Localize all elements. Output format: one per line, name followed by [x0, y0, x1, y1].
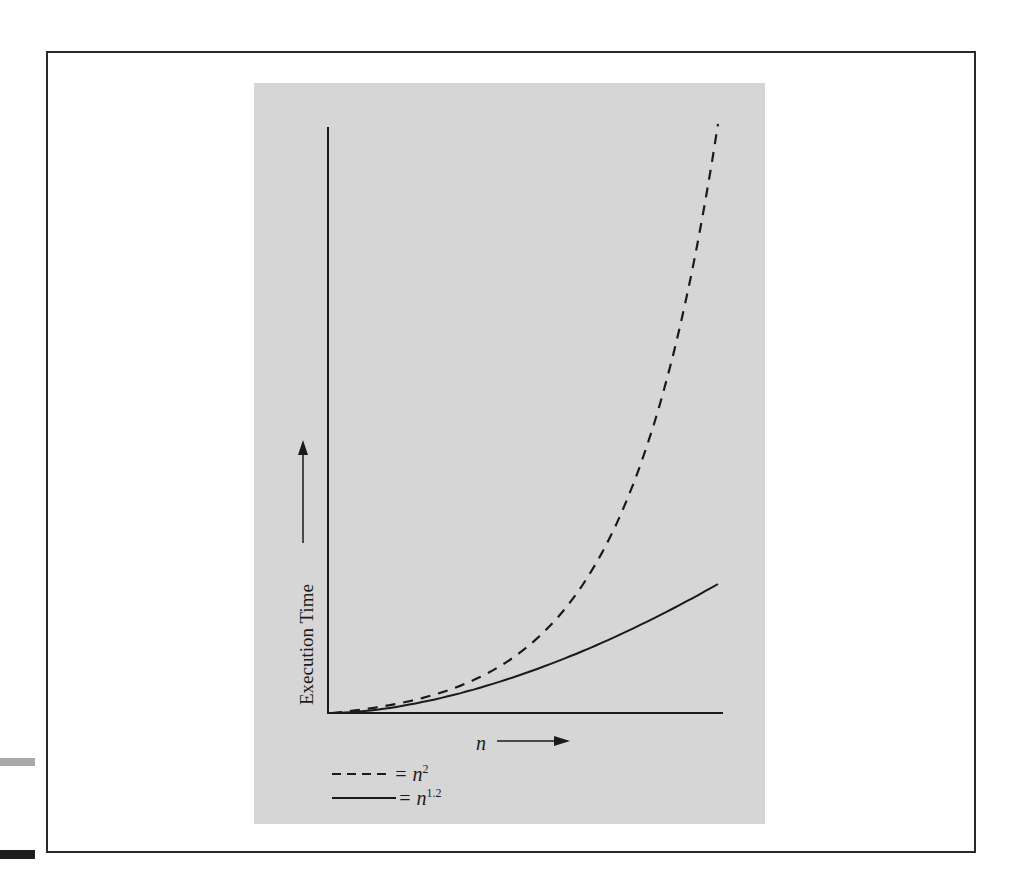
legend-label: = n — [394, 763, 423, 785]
chart-plot — [0, 0, 1021, 884]
legend-item-n-1-2: = n1.2 — [398, 786, 442, 810]
y-arrow-head-icon — [298, 440, 308, 455]
curve-n-squared — [332, 124, 718, 713]
legend-item-n-squared: = n2 — [394, 762, 429, 786]
x-arrow-head-icon — [554, 736, 570, 746]
legend-exponent: 1.2 — [427, 786, 442, 800]
y-axis-label: Execution Time — [296, 584, 318, 705]
legend-label: = n — [398, 787, 427, 809]
x-axis-label: n — [476, 732, 486, 755]
legend-exponent: 2 — [423, 762, 429, 776]
